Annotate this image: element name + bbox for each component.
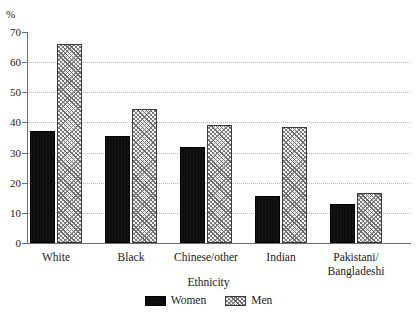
y-axis-tick-mark [22,243,27,244]
legend-swatch-women [145,296,166,306]
y-axis-tick-mark [22,32,27,33]
legend-item-women: Women [145,295,206,306]
y-axis-ticks: 010203040506070 [0,0,27,314]
y-axis-tick-label: 30 [1,147,21,159]
legend-label-women: Women [171,295,206,306]
y-axis-tick-mark [22,122,27,123]
bar-men [132,109,157,243]
plot-area [27,32,410,243]
bar-women [105,136,130,243]
y-axis-tick-label: 50 [1,86,21,98]
bar-group [255,32,307,243]
bar-chart: % 010203040506070 WhiteBlackChinese/othe… [0,0,417,314]
y-axis-tick-label: 60 [1,56,21,68]
y-axis-tick-mark [22,62,27,63]
bar-men [57,44,82,243]
y-axis-line [27,32,28,244]
y-axis-tick-mark [22,213,27,214]
bar-men [207,125,232,243]
legend-swatch-men [225,296,246,306]
legend-item-men: Men [225,295,272,306]
bar-group [30,32,82,243]
y-axis-tick-label: 20 [1,177,21,189]
x-axis-title: Ethnicity [0,276,417,288]
y-axis-tick-mark [22,92,27,93]
bar-group [180,32,232,243]
y-axis-tick-label: 0 [1,237,21,249]
bar-women [30,131,55,243]
y-axis-tick-label: 10 [1,207,21,219]
bar-group [105,32,157,243]
y-axis-tick-mark [22,183,27,184]
y-axis-tick-mark [22,153,27,154]
x-axis-tick-label: Pakistani/ Bangladeshi [301,250,411,278]
legend-label-men: Men [251,295,272,306]
legend: Women Men [0,295,417,306]
bar-men [357,193,382,243]
x-axis-line [22,243,411,244]
bar-group [330,32,382,243]
bar-women [255,196,280,243]
y-axis-tick-label: 70 [1,26,21,38]
bar-men [282,127,307,243]
bar-women [180,147,205,243]
bar-women [330,204,355,243]
y-axis-tick-label: 40 [1,116,21,128]
